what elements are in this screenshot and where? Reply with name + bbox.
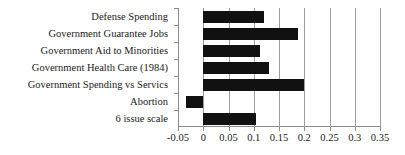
bar: [203, 62, 269, 74]
y-tick-mark: [174, 76, 178, 77]
bar: [203, 113, 256, 125]
bar: [203, 79, 304, 91]
bar: [186, 96, 204, 108]
y-tick-mark: [174, 59, 178, 60]
y-tick-mark: [174, 93, 178, 94]
category-label: 6 issue scale: [116, 110, 169, 127]
x-tick-label: 0: [201, 131, 206, 145]
category-label: Defense Spending: [91, 8, 168, 25]
category-label: Government Aid to Minorities: [41, 42, 168, 59]
x-axis-tick-labels: -0.0500.050.10.150.20.250.30.35: [178, 131, 388, 147]
x-tick-label: 0.15: [270, 131, 288, 145]
x-tick-label: 0.2: [298, 131, 311, 145]
x-tick-label: 0.25: [320, 131, 338, 145]
category-label: Government Guarantee Jobs: [48, 25, 168, 42]
y-tick-mark: [174, 25, 178, 26]
plot-area: [178, 8, 380, 127]
x-tick-label: 0.1: [247, 131, 260, 145]
x-tick-label: -0.05: [167, 131, 189, 145]
y-tick-mark: [174, 8, 178, 9]
category-label: Abortion: [130, 93, 168, 110]
bar: [203, 11, 264, 23]
x-tick-label: 0.05: [219, 131, 237, 145]
bar: [203, 28, 298, 40]
gridline: [355, 8, 356, 127]
x-tick-label: 0.35: [371, 131, 389, 145]
category-label: Government Health Care (1984): [32, 59, 168, 76]
y-tick-mark: [174, 42, 178, 43]
gridline: [330, 8, 331, 127]
gridline: [380, 8, 381, 127]
x-tick-label: 0.3: [348, 131, 361, 145]
gridline: [304, 8, 305, 127]
bar: [203, 45, 260, 57]
category-label: Government Spending vs Servics: [28, 76, 168, 93]
y-tick-mark: [174, 110, 178, 111]
y-axis-line: [178, 8, 179, 127]
category-axis-labels: Defense SpendingGovernment Guarantee Job…: [0, 8, 173, 127]
gridline: [279, 8, 280, 127]
bar-chart-figure: Defense SpendingGovernment Guarantee Job…: [0, 0, 405, 155]
